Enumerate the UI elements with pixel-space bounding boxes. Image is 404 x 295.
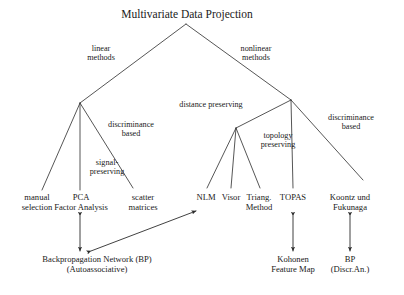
edge-layer	[0, 0, 404, 295]
terminal-node-2: BP (Discr.An.)	[331, 255, 370, 274]
terminal-node-1: Kohonen Feature Map	[271, 255, 315, 274]
branch-label-2: discriminance based	[108, 120, 154, 138]
branch-label-5: topology preserving	[261, 131, 296, 149]
terminal-node-0: Backpropagation Network (BP) (Autoassoci…	[42, 255, 151, 274]
arrow-bp-nlm-link	[91, 211, 196, 251]
leaf-node-7: Koontz und Fukunaga	[330, 193, 370, 212]
branch-label-4: distance preserving	[179, 100, 242, 109]
link-arrow-group	[80, 211, 350, 251]
leaf-node-3: NLM	[196, 193, 215, 203]
leaf-node-6: TOPAS	[280, 193, 306, 203]
tree-edge-root-to-linear	[80, 24, 186, 103]
tree-edge-nonlinear-to-koontz	[291, 100, 363, 180]
branch-label-6: discriminance based	[328, 113, 374, 131]
leaf-node-1: PCA Factor Analysis	[54, 193, 108, 212]
branch-label-0: linear methods	[87, 44, 115, 62]
leaf-node-0: manual selection	[22, 193, 53, 212]
taxonomy-diagram: Multivariate Data Projection linear meth…	[0, 0, 404, 295]
tree-edge-linear-to-manual	[42, 103, 80, 190]
diagram-title: Multivariate Data Projection	[121, 8, 253, 21]
tree-edge-nonlinear-to-distance	[236, 100, 291, 128]
branch-label-1: nonlinear methods	[241, 44, 272, 62]
tree-edge-distance-to-triang	[236, 128, 260, 188]
leaf-node-4: Visor	[222, 193, 241, 203]
leaf-node-5: Triang. Method	[246, 193, 273, 212]
branch-label-3: signal- preserving	[90, 158, 125, 176]
leaf-node-2: scatter matrices	[128, 193, 157, 212]
tree-edge-root-to-nonlinear	[186, 24, 291, 100]
